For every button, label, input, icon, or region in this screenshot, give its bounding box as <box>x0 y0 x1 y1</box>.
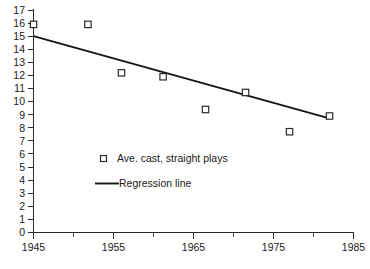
data-point-marker <box>326 113 332 119</box>
y-tick-label: 1 <box>19 213 25 225</box>
data-point-marker <box>202 106 208 112</box>
y-tick-label: 15 <box>13 30 25 42</box>
x-tick-label: 1945 <box>22 241 46 253</box>
data-point-marker <box>30 21 36 27</box>
regression-line <box>34 36 331 118</box>
legend-line-label: Regression line <box>119 177 192 189</box>
data-point-marker <box>286 129 292 135</box>
x-tick-label: 1985 <box>342 241 366 253</box>
y-tick-label: 11 <box>14 82 25 94</box>
y-tick-label: 17 <box>13 4 25 16</box>
y-tick-label: 14 <box>13 43 25 55</box>
y-tick-label: 7 <box>19 135 25 147</box>
data-point-marker <box>242 89 248 95</box>
chart-container: 01234567891011121314151617 1945195519651… <box>0 0 370 269</box>
legend-scatter-marker-icon <box>101 156 107 162</box>
y-tick-label: 2 <box>19 200 25 212</box>
y-tick-label: 10 <box>13 95 25 107</box>
y-tick-label: 5 <box>19 161 25 173</box>
data-point-marker <box>118 70 124 76</box>
y-tick-label: 16 <box>13 17 25 29</box>
regression-line-group <box>34 36 331 118</box>
y-tick-label: 8 <box>19 122 25 134</box>
y-tick-label: 13 <box>13 56 25 68</box>
data-point-marker <box>85 21 91 27</box>
legend-scatter-label: Ave. cast, straight plays <box>117 152 228 164</box>
y-tick-label: 3 <box>19 187 25 199</box>
data-point-marker <box>160 74 166 80</box>
y-tick-label: 4 <box>19 174 25 186</box>
y-axis-ticks: 01234567891011121314151617 <box>13 4 33 239</box>
x-tick-label: 1975 <box>262 241 286 253</box>
y-tick-label: 6 <box>19 148 25 160</box>
chart-legend: Ave. cast, straight plays Regression lin… <box>95 152 228 189</box>
scatter-chart: 01234567891011121314151617 1945195519651… <box>0 0 370 269</box>
axis-group <box>34 9 354 233</box>
y-tick-label: 9 <box>19 109 25 121</box>
y-tick-label: 12 <box>13 69 25 81</box>
x-tick-label: 1965 <box>182 241 206 253</box>
x-axis-ticks: 19451955196519751985 <box>22 233 366 254</box>
y-tick-label: 0 <box>19 226 25 238</box>
x-tick-label: 1955 <box>102 241 126 253</box>
